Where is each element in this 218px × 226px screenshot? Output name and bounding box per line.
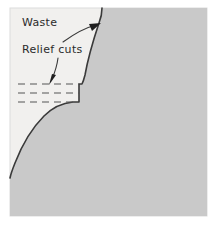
- figure-root: Waste Relief cuts: [0, 0, 218, 226]
- technical-illustration-svg: Waste Relief cuts: [0, 0, 218, 226]
- relief-cuts-label: Relief cuts: [22, 43, 83, 56]
- waste-label: Waste: [22, 16, 57, 29]
